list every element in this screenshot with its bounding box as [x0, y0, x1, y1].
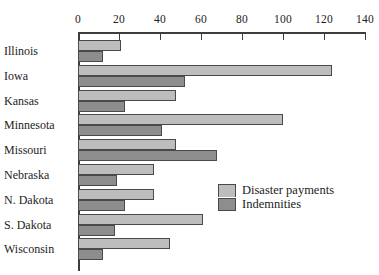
- bar-illinois-disaster-payments: [78, 40, 121, 51]
- bar-nebraska-disaster-payments: [78, 164, 154, 175]
- category-label-s-dakota: S. Dakota: [4, 218, 74, 232]
- legend-swatch-icon: [218, 198, 236, 211]
- x-axis-line: [78, 32, 366, 34]
- category-label-wisconsin: Wisconsin: [4, 242, 74, 256]
- x-axis-tick-label: 100: [263, 13, 303, 26]
- x-axis-tick: [201, 34, 202, 40]
- x-axis-tick-label: 40: [140, 13, 180, 26]
- x-axis-tick: [160, 34, 161, 40]
- category-label-minnesota: Minnesota: [4, 118, 74, 132]
- bar-wisconsin-indemnities: [78, 249, 103, 260]
- bar-s-dakota-indemnities: [78, 225, 115, 236]
- bar-iowa-indemnities: [78, 76, 185, 87]
- bar-iowa-disaster-payments: [78, 65, 332, 76]
- chart-axes: 020406080100120140: [0, 0, 379, 275]
- bar-nebraska-indemnities: [78, 175, 117, 186]
- bar-minnesota-indemnities: [78, 125, 162, 136]
- bar-minnesota-disaster-payments: [78, 114, 283, 125]
- bar-missouri-indemnities: [78, 150, 217, 161]
- x-axis-tick: [283, 34, 284, 40]
- bar-n-dakota-indemnities: [78, 200, 125, 211]
- category-label-illinois: Illinois: [4, 44, 74, 58]
- x-axis-tick-label: 120: [304, 13, 344, 26]
- x-axis-tick: [365, 34, 366, 40]
- x-axis-tick-label: 140: [345, 13, 379, 26]
- category-label-missouri: Missouri: [4, 143, 74, 157]
- category-label-nebraska: Nebraska: [4, 168, 74, 182]
- bar-kansas-disaster-payments: [78, 90, 176, 101]
- bar-s-dakota-disaster-payments: [78, 214, 203, 225]
- x-axis-tick-label: 60: [181, 13, 221, 26]
- x-axis-tick: [324, 34, 325, 40]
- bar-n-dakota-disaster-payments: [78, 189, 154, 200]
- bar-chart: 020406080100120140 IllinoisIowaKansasMin…: [0, 0, 379, 275]
- category-label-n-dakota: N. Dakota: [4, 193, 74, 207]
- x-axis-tick-label: 0: [58, 13, 98, 26]
- legend-swatch-icon: [218, 184, 236, 197]
- legend-item-disaster-payments: Disaster payments: [218, 183, 334, 197]
- category-label-iowa: Iowa: [4, 69, 74, 83]
- bar-missouri-disaster-payments: [78, 139, 176, 150]
- bar-wisconsin-disaster-payments: [78, 238, 170, 249]
- legend-label: Indemnities: [242, 197, 301, 211]
- legend-label: Disaster payments: [242, 183, 334, 197]
- category-label-kansas: Kansas: [4, 94, 74, 108]
- x-axis-tick: [242, 34, 243, 40]
- x-axis-tick-label: 80: [222, 13, 262, 26]
- chart-legend: Disaster paymentsIndemnities: [218, 183, 334, 211]
- bar-kansas-indemnities: [78, 101, 125, 112]
- legend-item-indemnities: Indemnities: [218, 197, 334, 211]
- bar-illinois-indemnities: [78, 51, 103, 62]
- x-axis-tick-label: 20: [99, 13, 139, 26]
